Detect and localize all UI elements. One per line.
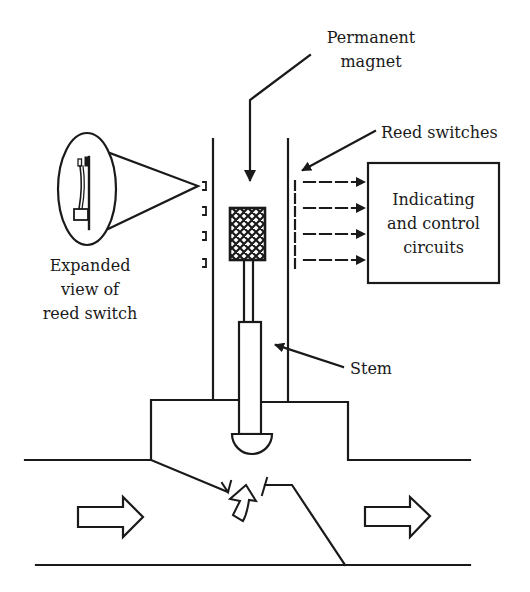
label-stem: Stem xyxy=(350,357,392,381)
reed-switches-pointer xyxy=(303,131,375,170)
reed-contact-small xyxy=(78,159,82,166)
label-expanded-view-line2: view of xyxy=(32,278,148,302)
label-control-box: Indicating and control circuits xyxy=(368,188,499,260)
label-control-box-line1: Indicating xyxy=(368,188,499,212)
reed-contact-top xyxy=(85,157,89,166)
label-control-box-line2: and control xyxy=(368,212,499,236)
reed-mark-2 xyxy=(203,207,206,215)
reed-blade-flex-2 xyxy=(82,166,84,209)
flow-arrow-outlet xyxy=(365,497,430,537)
expanded-view-cone xyxy=(108,153,198,229)
permanent-magnet xyxy=(230,208,265,260)
valve-body-left xyxy=(25,400,238,460)
valve-seat-right-tip xyxy=(262,478,267,495)
reed-mark-4 xyxy=(203,259,206,267)
flow-arrow-through-seat xyxy=(230,485,256,521)
label-expanded-view: Expanded view of reed switch xyxy=(32,254,148,326)
magnet-pointer xyxy=(250,55,310,180)
label-permanent-magnet-line2: magnet xyxy=(316,50,426,74)
reed-base xyxy=(74,209,88,220)
label-reed-switches: Reed switches xyxy=(381,121,498,145)
reed-mark-1 xyxy=(203,182,206,190)
reed-blade-flex xyxy=(79,166,81,209)
label-expanded-view-line1: Expanded xyxy=(32,254,148,278)
label-permanent-magnet-line1: Permanent xyxy=(316,26,426,50)
stem-pointer xyxy=(276,345,343,367)
flow-arrow-inlet xyxy=(78,497,143,537)
valve-body-right xyxy=(261,402,470,460)
expanded-view-ellipse xyxy=(58,133,116,245)
reed-mark-3 xyxy=(203,232,206,240)
valve-seat-right xyxy=(265,485,345,565)
valve-seat-left xyxy=(151,460,228,492)
label-permanent-magnet: Permanent magnet xyxy=(316,26,426,74)
stem xyxy=(239,322,261,434)
valve-plug xyxy=(232,434,272,454)
label-expanded-view-line3: reed switch xyxy=(32,302,148,326)
label-control-box-line3: circuits xyxy=(368,236,499,260)
